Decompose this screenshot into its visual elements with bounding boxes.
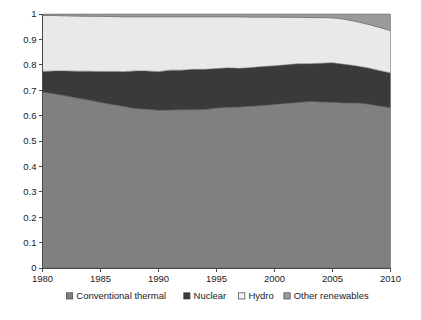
legend-label-conventional-thermal: Conventional thermal	[76, 290, 166, 301]
area-band-conventional-thermal	[43, 92, 391, 268]
legend-swatch-nuclear	[184, 293, 190, 299]
y-tick-label: 0.5	[23, 135, 36, 146]
x-tick-label: 2000	[264, 273, 285, 284]
x-tick-label: 1980	[32, 273, 53, 284]
y-tick-label: 0.1	[23, 237, 36, 248]
legend-swatch-hydro	[239, 293, 245, 299]
x-tick-label: 2010	[380, 273, 401, 284]
y-tick-label: 0.4	[23, 161, 36, 172]
stacked-area-chart: 00.10.20.30.40.50.60.70.80.91 1980198519…	[0, 0, 421, 320]
legend-label-nuclear: Nuclear	[194, 290, 227, 301]
x-tick-label: 1985	[90, 273, 111, 284]
x-tick-label: 2005	[322, 273, 343, 284]
legend-label-other-renewables: Other renewables	[294, 290, 369, 301]
y-tick-label: 0.3	[23, 186, 36, 197]
chart-legend: Conventional thermalNuclearHydroOther re…	[67, 290, 369, 301]
y-tick-label: 1	[31, 8, 36, 19]
plot-area-bands	[43, 14, 391, 268]
y-tick-label: 0	[31, 262, 36, 273]
y-tick-label: 0.8	[23, 59, 36, 70]
x-tick-label: 1990	[148, 273, 169, 284]
y-tick-label: 0.9	[23, 34, 36, 45]
y-tick-label: 0.7	[23, 85, 36, 96]
legend-swatch-conventional-thermal	[67, 293, 73, 299]
legend-label-hydro: Hydro	[248, 290, 273, 301]
y-tick-label: 0.2	[23, 212, 36, 223]
x-tick-label: 1995	[206, 273, 227, 284]
chart-canvas: 00.10.20.30.40.50.60.70.80.91 1980198519…	[0, 0, 421, 320]
legend-swatch-other-renewables	[284, 293, 290, 299]
y-tick-label: 0.6	[23, 110, 36, 121]
